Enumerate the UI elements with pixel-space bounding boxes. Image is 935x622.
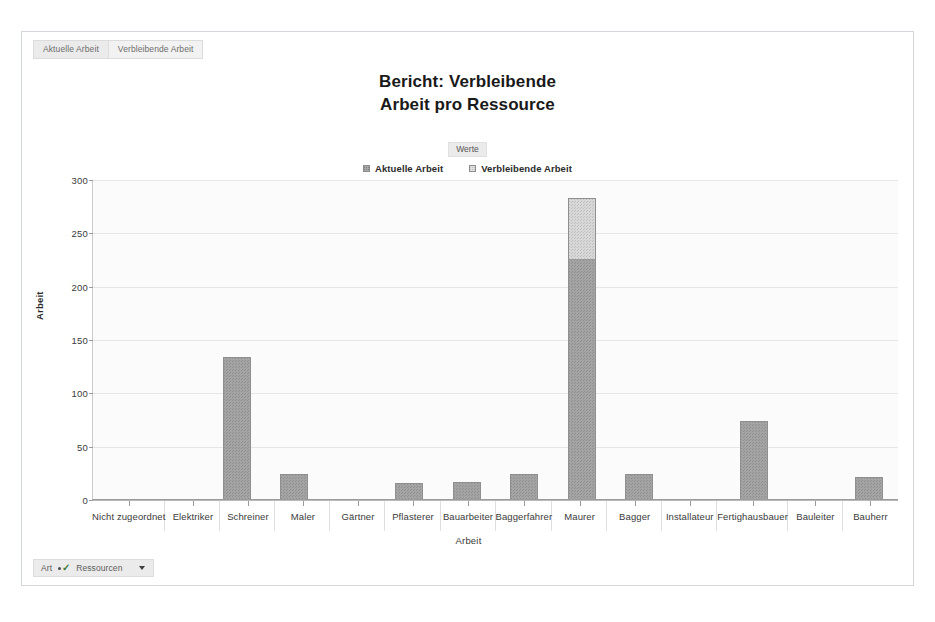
- x-axis-tick-mark: [690, 501, 691, 506]
- bar-segment-actual[interactable]: [280, 474, 308, 499]
- x-axis-tick-label: Maler: [291, 511, 315, 522]
- bar-stack[interactable]: [223, 357, 251, 499]
- bar-slot: [726, 180, 784, 499]
- filter-bar[interactable]: Art ✓ Ressourcen: [33, 559, 154, 577]
- filter-value: Ressourcen: [76, 564, 122, 573]
- filter-check-icon[interactable]: ✓: [58, 563, 70, 573]
- x-axis-category: Bagger: [607, 501, 662, 531]
- y-axis-tick-label: 50: [48, 441, 88, 452]
- legend-item-label: Verbleibende Arbeit: [481, 163, 572, 174]
- chart-legend: Werte Aktuelle Arbeit Verbleibende Arbei…: [22, 138, 913, 174]
- x-axis-category: Bauleiter: [788, 501, 843, 531]
- y-axis-tick-label: 300: [48, 175, 88, 186]
- x-axis-tick-label: Bagger: [619, 511, 650, 522]
- x-axis-tick-label: Fertighausbauer: [717, 511, 788, 522]
- filter-field-label: Art: [41, 564, 52, 573]
- tab-strip: Aktuelle Arbeit Verbleibende Arbeit: [33, 40, 203, 59]
- x-axis-tick-label: Installateur: [666, 511, 714, 522]
- legend-item-aktuelle-arbeit[interactable]: Aktuelle Arbeit: [363, 163, 443, 174]
- bar-stack[interactable]: [568, 198, 596, 499]
- x-axis-tick-label: Bauherr: [853, 511, 888, 522]
- chart-title: Bericht: Verbleibende Arbeit pro Ressour…: [22, 70, 913, 117]
- bar-slot: [381, 180, 439, 499]
- bar-slot: [93, 180, 151, 499]
- bar-slot: [266, 180, 324, 499]
- legend-item-verbleibende-arbeit[interactable]: Verbleibende Arbeit: [469, 163, 572, 174]
- bar-segment-actual[interactable]: [453, 482, 481, 499]
- x-axis-tick-mark: [870, 501, 871, 506]
- x-axis-category: Bauherr: [843, 501, 898, 531]
- x-axis-tick-mark: [580, 501, 581, 506]
- bar-segment-remaining[interactable]: [568, 198, 596, 259]
- bar-series-container: [93, 180, 898, 499]
- tab-aktuelle-arbeit[interactable]: Aktuelle Arbeit: [33, 40, 109, 59]
- x-axis-tick-label: Nicht zugeordnet: [92, 511, 165, 522]
- x-axis-category: Pflasterer: [385, 501, 440, 531]
- x-axis-title: Arbeit: [22, 535, 915, 546]
- x-axis-category: Elektriker: [165, 501, 220, 531]
- x-axis-tick-mark: [248, 501, 249, 506]
- x-axis-category: Gärtner: [330, 501, 385, 531]
- x-axis-tick-mark: [413, 501, 414, 506]
- x-axis-tick-label: Pflasterer: [392, 511, 434, 522]
- chevron-down-icon[interactable]: [139, 566, 145, 570]
- bar-slot: [496, 180, 554, 499]
- bar-segment-actual[interactable]: [568, 259, 596, 499]
- y-axis-tick-label: 0: [48, 495, 88, 506]
- plot-wrap: Arbeit 050100150200250300 Nicht zugeordn…: [22, 180, 915, 535]
- x-axis-tick-mark: [815, 501, 816, 506]
- bar-stack[interactable]: [510, 474, 538, 499]
- x-axis-tick-mark: [524, 501, 525, 506]
- x-axis-tick-label: Baggerfahrer: [496, 511, 553, 522]
- bar-stack[interactable]: [280, 474, 308, 499]
- tab-verbleibende-arbeit[interactable]: Verbleibende Arbeit: [109, 40, 204, 59]
- y-axis-tick-labels: 050100150200250300: [48, 180, 88, 500]
- legend-item-label: Aktuelle Arbeit: [375, 163, 443, 174]
- x-axis-category: Installateur: [662, 501, 717, 531]
- bar-segment-actual[interactable]: [740, 421, 768, 499]
- bar-stack[interactable]: [625, 474, 653, 499]
- bar-stack[interactable]: [453, 482, 481, 499]
- bar-stack[interactable]: [395, 483, 423, 499]
- x-axis-category: Maler: [275, 501, 330, 531]
- bar-segment-actual[interactable]: [625, 474, 653, 499]
- y-axis-tick-label: 150: [48, 335, 88, 346]
- x-axis-category: Maurer: [552, 501, 607, 531]
- chart-title-line2: Arbeit pro Ressource: [22, 93, 913, 116]
- bar-segment-actual[interactable]: [855, 477, 883, 499]
- bar-slot: [841, 180, 899, 499]
- x-axis-tick-mark: [129, 501, 130, 506]
- x-axis-tick-label: Gärtner: [342, 511, 375, 522]
- bar-slot: [553, 180, 611, 499]
- y-axis-title: Arbeit: [34, 291, 45, 320]
- x-axis-category: Schreiner: [220, 501, 275, 531]
- y-axis-tick-label: 250: [48, 228, 88, 239]
- plot-area: [92, 180, 898, 500]
- legend-items: Aktuelle Arbeit Verbleibende Arbeit: [22, 163, 913, 174]
- chart-title-line1: Bericht: Verbleibende: [379, 72, 556, 91]
- x-axis-category: Nicht zugeordnet: [92, 501, 165, 531]
- x-axis-tick-label: Bauarbeiter: [443, 511, 493, 522]
- x-axis-tick-mark: [303, 501, 304, 506]
- bar-stack[interactable]: [855, 477, 883, 499]
- bar-slot: [151, 180, 209, 499]
- x-axis-tick-label: Elektriker: [173, 511, 214, 522]
- bar-slot: [323, 180, 381, 499]
- x-axis-tick-mark: [358, 501, 359, 506]
- bar-stack[interactable]: [740, 421, 768, 499]
- y-axis-tick-label: 100: [48, 388, 88, 399]
- x-axis-tick-label: Maurer: [564, 511, 595, 522]
- bar-slot: [668, 180, 726, 499]
- bar-slot: [611, 180, 669, 499]
- x-axis-tick-mark: [753, 501, 754, 506]
- legend-title: Werte: [448, 142, 487, 157]
- y-axis-tick-label: 200: [48, 281, 88, 292]
- x-axis-tick-label: Schreiner: [227, 511, 269, 522]
- bar-segment-actual[interactable]: [510, 474, 538, 499]
- x-axis-tick-labels: Nicht zugeordnetElektrikerSchreinerMaler…: [92, 501, 898, 531]
- hatched-dark-square-icon: [363, 165, 370, 172]
- x-axis-tick-label: Bauleiter: [796, 511, 834, 522]
- bar-slot: [783, 180, 841, 499]
- bar-segment-actual[interactable]: [395, 483, 423, 499]
- bar-segment-actual[interactable]: [223, 357, 251, 499]
